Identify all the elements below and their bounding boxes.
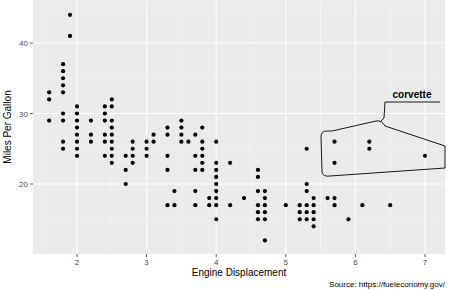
data-point [61,140,65,144]
data-point [214,182,218,186]
data-point [256,168,260,172]
data-point [193,189,197,193]
data-point [61,147,65,151]
data-point [75,126,79,130]
data-point [305,217,309,221]
data-point [61,83,65,87]
data-point [110,104,114,108]
data-point [305,210,309,214]
data-point [256,203,260,207]
data-point [165,133,169,137]
data-point [305,189,309,193]
data-point [332,203,336,207]
data-point [75,154,79,158]
data-point [284,203,288,207]
data-point [110,118,114,122]
data-point [131,147,135,151]
data-point [312,210,316,214]
data-point [367,140,371,144]
data-point [207,196,211,200]
data-point [151,140,155,144]
data-point [47,118,51,122]
data-point [186,140,190,144]
x-tick-label: 7 [423,258,428,267]
data-point [103,154,107,158]
data-point [193,133,197,137]
data-point [263,238,267,242]
data-point [103,104,107,108]
data-point [200,154,204,158]
data-point [325,196,329,200]
data-point [298,203,302,207]
data-point [165,168,169,172]
data-point [145,154,149,158]
data-point [75,111,79,115]
data-point [165,154,169,158]
data-point [103,118,107,122]
data-point [47,97,51,101]
annotation-label: corvette [393,89,432,100]
x-tick-label: 4 [214,258,219,267]
data-point [298,210,302,214]
y-tick-label: 20 [19,180,28,189]
data-point [179,133,183,137]
data-point [312,224,316,228]
scatter-chart: corvette 234567 203040 Engine Displaceme… [0,0,450,290]
data-point [193,154,197,158]
data-point [179,126,183,130]
data-point [61,90,65,94]
data-point [263,189,267,193]
data-point [103,140,107,144]
data-point [103,111,107,115]
data-point [124,168,128,172]
y-axis: 203040 [19,39,33,189]
x-tick-label: 6 [353,258,358,267]
data-point [256,189,260,193]
data-point [131,154,135,158]
data-point [305,182,309,186]
data-point [200,161,204,165]
data-point [214,140,218,144]
data-point [172,203,176,207]
data-point [61,118,65,122]
data-point [360,203,364,207]
data-point [179,140,183,144]
x-axis-title: Engine Displacement [192,267,287,278]
data-point [242,196,246,200]
data-point [263,217,267,221]
data-point [332,161,336,165]
data-point [214,161,218,165]
data-point [131,161,135,165]
y-axis-title: Miles Per Gallon [2,90,13,163]
data-point [165,126,169,130]
data-point [124,182,128,186]
data-point [312,203,316,207]
data-point [89,118,93,122]
data-point [256,217,260,221]
data-point [75,140,79,144]
data-point [103,133,107,137]
data-point [214,217,218,221]
data-point [214,175,218,179]
data-point [179,118,183,122]
data-point [332,140,336,144]
data-point [110,126,114,130]
data-point [228,161,232,165]
x-tick-label: 5 [284,258,289,267]
data-point [110,133,114,137]
x-tick-label: 3 [144,258,149,267]
data-point [145,140,149,144]
x-axis: 234567 [75,254,428,267]
data-point [214,189,218,193]
data-point [124,154,128,158]
caption: Source: https://fueleconomy.gov/ [329,280,446,289]
data-point [110,161,114,165]
data-point [346,217,350,221]
data-point [312,196,316,200]
data-point [214,168,218,172]
x-tick-label: 2 [75,258,80,267]
data-point [131,140,135,144]
data-point [193,203,197,207]
data-point [75,118,79,122]
data-point [207,203,211,207]
